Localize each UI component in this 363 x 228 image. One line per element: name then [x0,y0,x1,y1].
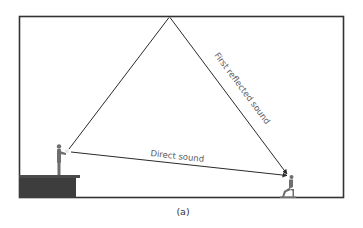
figure-caption: (a) [176,206,189,217]
listener-figure [280,175,296,198]
speaker-figure [57,144,69,175]
reflected-ray-down [170,18,287,175]
stage [19,175,80,198]
room-outline [20,17,344,198]
sound-reflection-diagram: Direct sound First reflected sound (a) [0,0,363,228]
reflected-ray-up [69,18,169,150]
